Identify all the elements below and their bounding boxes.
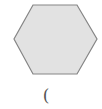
hexagon-shape (14, 5, 97, 74)
caption-label: ( (36, 84, 56, 106)
hexagon-figure (0, 0, 102, 80)
